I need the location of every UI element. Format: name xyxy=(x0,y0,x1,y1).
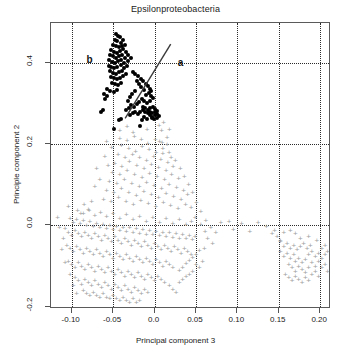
group-separator-line xyxy=(125,44,171,118)
x-axis-tick-label: 0.15 xyxy=(258,315,298,324)
y-axis-tick xyxy=(45,143,50,144)
y-axis-tick-label: 0.2 xyxy=(25,129,34,155)
plot-frame: ab xyxy=(50,22,330,308)
x-axis-tick xyxy=(195,308,196,313)
x-axis-tick-label: -0.05 xyxy=(92,315,132,324)
x-axis-tick-label: 0.10 xyxy=(216,315,256,324)
x-axis-tick xyxy=(112,308,113,313)
x-axis-title: Principal component 3 xyxy=(0,336,351,345)
x-axis-tick xyxy=(71,308,72,313)
y-axis-tick-label: -0.2 xyxy=(25,291,34,317)
x-axis-tick xyxy=(236,308,237,313)
y-axis-tick-label: 0.0 xyxy=(25,210,34,236)
x-axis-tick-label: 0.0 xyxy=(134,315,174,324)
x-axis-tick xyxy=(278,308,279,313)
x-axis-tick-label: -0.10 xyxy=(51,315,91,324)
chart-title: Epsilonproteobacteria xyxy=(0,4,351,14)
y-axis-tick xyxy=(45,306,50,307)
x-axis-tick-label: 0.20 xyxy=(299,315,339,324)
scatter-plot-figure: Epsilonproteobacteria ab -0.10-0.050.00.… xyxy=(0,0,351,355)
x-axis-tick xyxy=(154,308,155,313)
x-axis-tick xyxy=(319,308,320,313)
y-axis-tick xyxy=(45,62,50,63)
separator-line-svg xyxy=(51,23,331,309)
y-axis-tick-label: 0.4 xyxy=(25,47,34,73)
x-axis-tick-label: 0.05 xyxy=(175,315,215,324)
y-axis-title: Principle component 2 xyxy=(12,95,21,235)
y-axis-tick xyxy=(45,224,50,225)
